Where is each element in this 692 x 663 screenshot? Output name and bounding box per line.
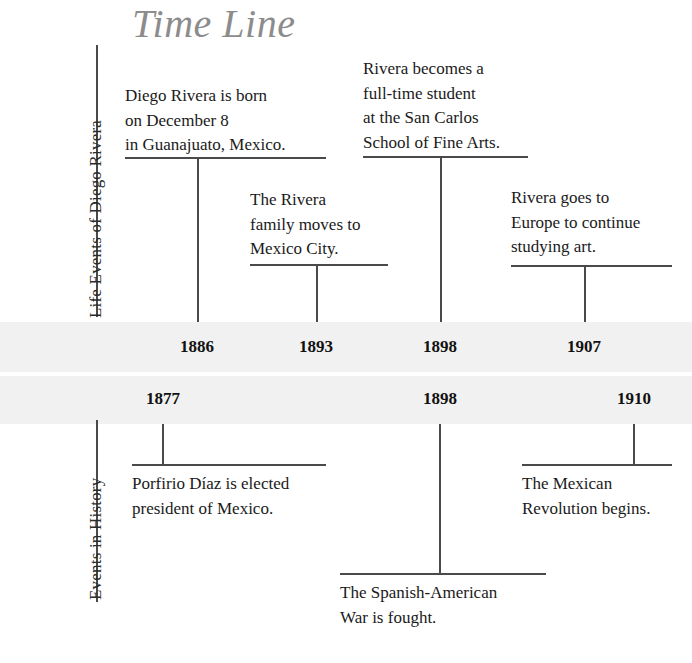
life-event-text-1898: Rivera becomes a full-time student at th… bbox=[363, 57, 543, 156]
life-year-1907: 1907 bbox=[567, 337, 601, 357]
life-year-1893: 1893 bbox=[299, 337, 333, 357]
life-event-text-1886: Diego Rivera is born on December 8 in Gu… bbox=[125, 84, 340, 158]
life-event-text-1907: Rivera goes to Europe to continue studyi… bbox=[511, 186, 686, 260]
life-year-band: 1886 1893 1898 1907 bbox=[0, 322, 692, 372]
history-connector-stem-1910 bbox=[633, 424, 635, 465]
history-year-1898: 1898 bbox=[423, 389, 457, 409]
life-connector-rule-1886 bbox=[125, 157, 326, 159]
history-event-text-1877: Porfirio Díaz is elected president of Me… bbox=[132, 472, 347, 521]
life-year-1886: 1886 bbox=[180, 337, 214, 357]
life-event-text-1893: The Rivera family moves to Mexico City. bbox=[250, 188, 410, 262]
life-connector-rule-1898 bbox=[363, 156, 528, 158]
history-connector-stem-1877 bbox=[162, 424, 164, 465]
history-connector-rule-1898 bbox=[340, 573, 546, 575]
history-connector-rule-1910 bbox=[522, 464, 672, 466]
life-connector-stem-1907 bbox=[584, 265, 586, 322]
history-event-text-1898: The Spanish-American War is fought. bbox=[340, 581, 555, 630]
life-connector-rule-1893 bbox=[250, 264, 388, 266]
history-year-1910: 1910 bbox=[617, 389, 651, 409]
history-year-band: 1877 1898 1910 bbox=[0, 376, 692, 424]
life-year-1898: 1898 bbox=[423, 337, 457, 357]
life-connector-stem-1898 bbox=[440, 156, 442, 322]
history-connector-stem-1898 bbox=[439, 424, 441, 574]
page-title: Time Line bbox=[132, 4, 295, 44]
history-connector-rule-1877 bbox=[132, 464, 326, 466]
history-year-1877: 1877 bbox=[146, 389, 180, 409]
timeline-infographic: Time Line Life Events of Diego Rivera Di… bbox=[0, 0, 692, 663]
life-connector-stem-1893 bbox=[316, 264, 318, 322]
life-connector-rule-1907 bbox=[511, 265, 672, 267]
life-section-label: Life Events of Diego Rivera bbox=[86, 120, 106, 318]
history-event-text-1910: The Mexican Revolution begins. bbox=[522, 472, 692, 521]
life-connector-stem-1886 bbox=[197, 157, 199, 322]
history-section-label: Events in History bbox=[86, 478, 106, 600]
